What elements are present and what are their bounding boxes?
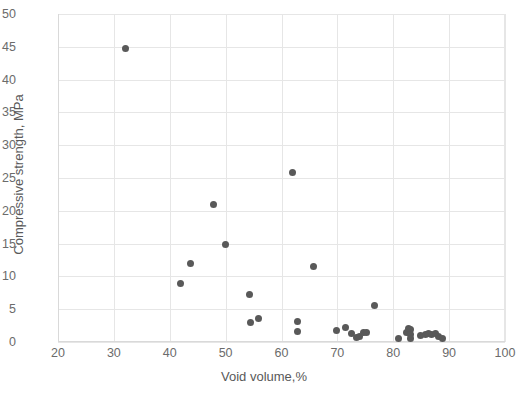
data-point: [247, 319, 254, 326]
y-tick-label: 0: [0, 336, 16, 349]
plot-border-top: [58, 14, 505, 15]
x-tick-label: 70: [317, 347, 357, 360]
data-point: [333, 327, 340, 334]
data-point: [246, 291, 253, 298]
x-tick-label: 80: [373, 347, 413, 360]
data-point: [289, 169, 296, 176]
data-point: [294, 318, 301, 325]
y-axis-line: [58, 14, 59, 342]
x-tick-label: 40: [150, 347, 190, 360]
x-tick-label: 90: [429, 347, 469, 360]
gridline-vertical: [226, 14, 227, 342]
gridline-vertical: [505, 14, 506, 342]
x-tick-label: 20: [38, 347, 78, 360]
gridline-vertical: [170, 14, 171, 342]
gridline-vertical: [337, 14, 338, 342]
gridline-vertical: [449, 14, 450, 342]
y-tick-label: 5: [0, 303, 16, 316]
data-point: [222, 241, 229, 248]
x-tick-label: 60: [262, 347, 302, 360]
data-point: [310, 263, 317, 270]
data-point: [439, 335, 446, 342]
y-tick-label: 50: [0, 8, 16, 21]
plot-area: [58, 14, 505, 342]
x-tick-label: 30: [94, 347, 134, 360]
data-point: [395, 335, 402, 342]
data-point: [210, 201, 217, 208]
x-axis-title: Void volume,%: [0, 370, 528, 383]
plot-border-right: [504, 14, 505, 342]
data-point: [294, 328, 301, 335]
x-axis-line: [58, 341, 505, 342]
y-tick-label: 45: [0, 41, 16, 54]
data-point: [177, 280, 184, 287]
gridline-vertical: [114, 14, 115, 342]
data-point: [187, 260, 194, 267]
data-point: [255, 315, 262, 322]
data-point: [122, 45, 129, 52]
data-point: [363, 329, 370, 336]
x-tick-label: 50: [206, 347, 246, 360]
y-axis-title: Compressive strength, MPa: [12, 65, 25, 285]
gridline-vertical: [393, 14, 394, 342]
scatter-chart: 05101520253035404550 2030405060708090100…: [0, 0, 528, 396]
gridline-horizontal: [58, 342, 505, 343]
gridline-vertical: [282, 14, 283, 342]
x-tick-label: 100: [485, 347, 525, 360]
